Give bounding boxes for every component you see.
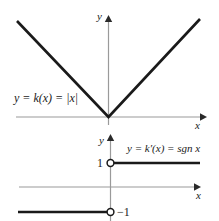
function-label-absolute-value: y = k(x) = |x| — [14, 92, 78, 104]
signum-open-endpoint-lower — [107, 209, 114, 216]
top-plot-group — [16, 15, 207, 125]
y-tick-label-minus-one: −1 — [117, 206, 130, 218]
top-x-axis-label: x — [195, 120, 200, 131]
figure-absolute-value-and-signum: y = k(x) = |x| y = k′(x) = sgn x y x y x… — [0, 0, 219, 221]
signum-open-endpoint-upper — [107, 160, 114, 167]
bottom-x-axis-label: x — [196, 190, 201, 201]
function-label-signum: y = k′(x) = sgn x — [127, 143, 200, 154]
top-y-axis-label: y — [97, 11, 102, 22]
y-tick-label-one: 1 — [97, 157, 103, 169]
bottom-y-axis-label: y — [99, 135, 104, 146]
bottom-y-axis-arrowhead — [107, 134, 114, 141]
top-x-axis-arrowhead — [200, 113, 207, 121]
plot-canvas — [0, 0, 219, 221]
top-y-axis-arrowhead — [105, 15, 112, 22]
